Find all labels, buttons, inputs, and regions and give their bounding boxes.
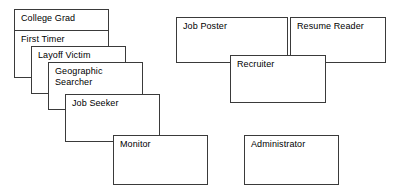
node-label-administrator: Administrator: [251, 139, 335, 150]
node-label-recruiter: Recruiter: [237, 59, 322, 70]
node-recruiter[interactable]: Recruiter: [230, 55, 326, 103]
node-administrator[interactable]: Administrator: [244, 135, 339, 185]
node-monitor[interactable]: Monitor: [113, 135, 208, 185]
node-label-monitor: Monitor: [120, 139, 204, 150]
node-college-grad[interactable]: College Grad: [14, 9, 109, 31]
node-label-job-seeker: Job Seeker: [72, 98, 156, 109]
node-label-job-poster: Job Poster: [183, 21, 284, 32]
node-label-college-grad: College Grad: [21, 13, 105, 24]
node-label-layoff-victim: Layoff Victim: [38, 50, 122, 61]
node-label-resume-reader: Resume Reader: [297, 21, 382, 32]
node-label-geographic-searcher: Geographic Searcher: [55, 66, 139, 88]
node-label-first-timer: First Timer: [21, 34, 105, 45]
diagram-canvas: College Grad First Timer Layoff Victim G…: [0, 0, 397, 196]
